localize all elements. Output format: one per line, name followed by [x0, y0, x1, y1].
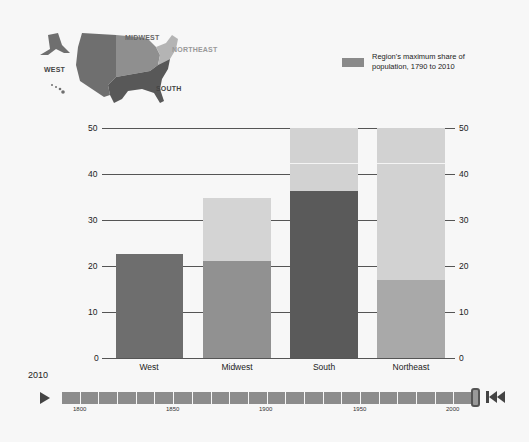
y-tick-right-10: 10: [459, 307, 468, 317]
timeline-tick-1950: 1950: [353, 406, 366, 412]
y-tick-right-40: 40: [459, 169, 468, 179]
y-tick-left-0: 0: [94, 353, 99, 363]
timeline-tick-1800: 1800: [73, 406, 86, 412]
track-segment: [62, 392, 80, 404]
y-tick-right-50: 50: [459, 123, 468, 133]
rewind-triangle: [497, 391, 505, 403]
gridline-0: [102, 358, 455, 359]
rewind-triangle: [489, 391, 497, 403]
track-segment: [230, 392, 248, 404]
timeline-tick-1900: 1900: [259, 406, 272, 412]
current-year-label: 2010: [28, 370, 48, 380]
bar-midwest-current[interactable]: [203, 261, 271, 358]
track-segment: [212, 392, 230, 404]
track-segment: [324, 392, 342, 404]
skip-to-start-icon[interactable]: [486, 391, 505, 403]
track-segment: [193, 392, 211, 404]
track-segment: [361, 392, 379, 404]
track-segment: [398, 392, 416, 404]
track-segment: [454, 392, 472, 404]
y-tick-left-30: 30: [88, 215, 97, 225]
play-icon[interactable]: [40, 392, 50, 404]
northeast-max-marker: [377, 163, 445, 164]
track-segment: [380, 392, 398, 404]
track-segment: [249, 392, 267, 404]
bar-west-current[interactable]: [116, 254, 183, 358]
category-label-south: South: [284, 362, 364, 372]
track-segment: [436, 392, 454, 404]
bar-south-current[interactable]: [290, 191, 358, 358]
timeline-tick-1850: 1850: [166, 406, 179, 412]
y-tick-left-40: 40: [88, 169, 97, 179]
y-tick-right-0: 0: [459, 353, 464, 363]
track-segment: [305, 392, 323, 404]
south-max-marker: [290, 163, 358, 164]
track-segment: [81, 392, 99, 404]
bar-northeast-current[interactable]: [377, 280, 445, 358]
track-segment: [155, 392, 173, 404]
track-segment: [137, 392, 155, 404]
y-tick-right-20: 20: [459, 261, 468, 271]
category-label-west: West: [109, 362, 189, 372]
track-segment: [118, 392, 136, 404]
bar-chart: 50 40 30 20 10 0 50 40 30 20 10 0 West M…: [0, 0, 529, 380]
timeline-tick-2000: 2000: [446, 406, 459, 412]
category-label-northeast: Northeast: [371, 362, 451, 372]
track-segment: [99, 392, 117, 404]
y-tick-left-10: 10: [88, 307, 97, 317]
y-tick-left-50: 50: [88, 123, 97, 133]
y-tick-right-30: 30: [459, 215, 468, 225]
track-segment: [417, 392, 435, 404]
track-segment: [268, 392, 286, 404]
timeline-track[interactable]: [62, 392, 472, 404]
timeline-handle[interactable]: [471, 388, 480, 407]
category-label-midwest: Midwest: [197, 362, 277, 372]
track-segment: [286, 392, 304, 404]
y-tick-left-20: 20: [88, 261, 97, 271]
track-segment: [342, 392, 360, 404]
track-segment: [174, 392, 192, 404]
